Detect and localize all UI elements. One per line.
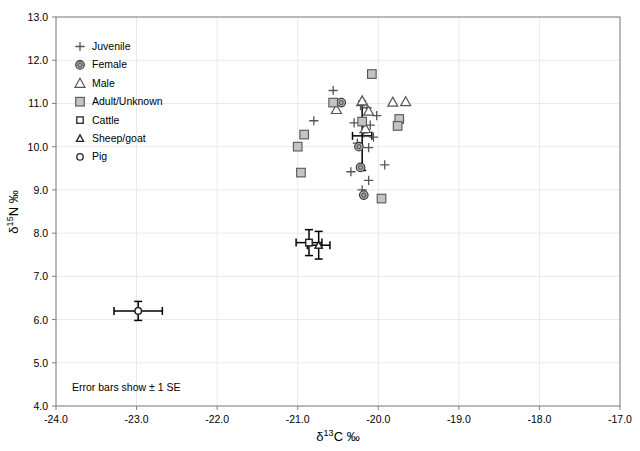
chart-figure: -24.0-23.0-22.0-21.0-20.0-19.0-18.0-17.0… [0, 0, 640, 451]
x-tick-label: -18.0 [527, 413, 551, 425]
data-point-marker [377, 194, 386, 203]
data-point-marker [393, 122, 402, 131]
y-axis-title: δ15N ‰ [5, 190, 21, 233]
x-tick-label: -23.0 [125, 413, 149, 425]
legend-label-cattle: Cattle [92, 114, 120, 126]
data-point-marker [358, 117, 367, 126]
legend-label-female: Female [92, 58, 127, 70]
error-bar-note: Error bars show ± 1 SE [72, 381, 180, 393]
y-tick-label: 10.0 [28, 141, 49, 153]
data-point-marker [368, 70, 377, 79]
y-tick-label: 6.0 [33, 314, 48, 326]
x-tick-label: -19.0 [447, 413, 471, 425]
y-tick-label: 9.0 [33, 184, 48, 196]
error-bar-center-marker [135, 308, 141, 314]
x-tick-label: -17.0 [608, 413, 632, 425]
y-tick-label: 11.0 [28, 97, 48, 109]
legend-label-sheep_goat: Sheep/goat [92, 132, 146, 144]
scatter-plot-canvas: -24.0-23.0-22.0-21.0-20.0-19.0-18.0-17.0… [0, 0, 640, 451]
data-point-marker [300, 130, 309, 139]
y-tick-label: 4.0 [33, 400, 48, 412]
legend-label-pig: Pig [92, 150, 107, 162]
data-point-marker [293, 142, 302, 151]
y-axis-title-text: δ15N ‰ [5, 190, 21, 233]
legend-marker-cattle [77, 117, 83, 123]
data-point-marker [355, 142, 364, 151]
x-tick-label: -20.0 [366, 413, 390, 425]
data-point-marker [356, 163, 365, 172]
x-tick-label: -24.0 [44, 413, 68, 425]
data-point-marker [329, 98, 338, 107]
y-tick-label: 12.0 [28, 54, 49, 66]
data-point-marker [337, 98, 346, 107]
x-tick-label: -22.0 [205, 413, 229, 425]
x-axis-title-text: δ13C ‰ [316, 428, 359, 444]
data-point-marker [359, 191, 368, 200]
legend-label-male: Male [92, 77, 115, 89]
legend-marker-female [76, 61, 85, 70]
x-tick-label: -21.0 [286, 413, 310, 425]
legend-marker-pig [77, 154, 83, 160]
y-tick-label: 13.0 [28, 11, 49, 23]
y-tick-label: 8.0 [33, 227, 48, 239]
legend-label-adult_unknown: Adult/Unknown [92, 95, 163, 107]
y-tick-label: 5.0 [33, 357, 48, 369]
error-bar-center-marker [306, 239, 312, 245]
x-axis-title: δ13C ‰ [316, 428, 359, 444]
data-point-marker [297, 168, 306, 177]
legend-marker-adult_unknown [76, 97, 85, 106]
y-tick-label: 7.0 [33, 270, 48, 282]
legend-label-juvenile: Juvenile [92, 40, 131, 52]
